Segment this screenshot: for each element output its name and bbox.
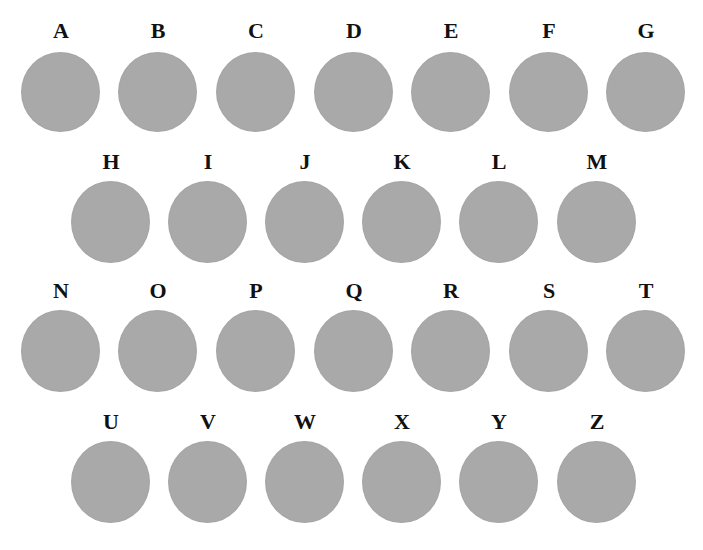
gray-disc — [459, 181, 538, 263]
gray-disc — [606, 52, 685, 132]
letter-label: N — [21, 280, 101, 302]
gray-disc — [71, 181, 150, 263]
letter-label: T — [606, 280, 686, 302]
letter-label: V — [168, 411, 248, 433]
letter-label: H — [71, 151, 151, 173]
letter-label: W — [265, 411, 345, 433]
gray-disc — [168, 441, 247, 523]
letter-label: Z — [557, 411, 637, 433]
letter-label: P — [216, 280, 296, 302]
gray-disc — [216, 52, 295, 132]
letter-label: C — [216, 20, 296, 42]
gray-disc — [265, 441, 344, 523]
gray-disc — [21, 310, 100, 392]
letter-label: G — [606, 20, 686, 42]
gray-disc — [459, 441, 538, 523]
letter-label: X — [362, 411, 442, 433]
letter-label: O — [118, 280, 198, 302]
gray-disc — [411, 52, 490, 132]
gray-disc — [509, 310, 588, 392]
gray-disc — [168, 181, 247, 263]
letter-label: J — [265, 151, 345, 173]
letter-label: M — [557, 151, 637, 173]
gray-disc — [314, 310, 393, 392]
gray-disc — [314, 52, 393, 132]
gray-disc — [557, 181, 636, 263]
gray-disc — [411, 310, 490, 392]
gray-disc — [509, 52, 588, 132]
letter-label: Y — [459, 411, 539, 433]
gray-disc — [265, 181, 344, 263]
gray-disc — [118, 310, 197, 392]
gray-disc — [118, 52, 197, 132]
letter-label: S — [509, 280, 589, 302]
gray-disc — [362, 181, 441, 263]
gray-disc — [606, 310, 685, 392]
gray-disc — [21, 52, 100, 132]
letter-label: U — [71, 411, 151, 433]
letter-label: L — [459, 151, 539, 173]
gray-disc — [71, 441, 150, 523]
gray-disc — [216, 310, 295, 392]
letter-label: B — [118, 20, 198, 42]
letter-label: F — [509, 20, 589, 42]
letter-label: I — [168, 151, 248, 173]
letter-label: R — [411, 280, 491, 302]
gray-disc — [557, 441, 636, 523]
letter-label: E — [411, 20, 491, 42]
letter-label: A — [21, 20, 101, 42]
gray-disc — [362, 441, 441, 523]
letter-label: Q — [314, 280, 394, 302]
letter-label: K — [362, 151, 442, 173]
letter-label: D — [314, 20, 394, 42]
